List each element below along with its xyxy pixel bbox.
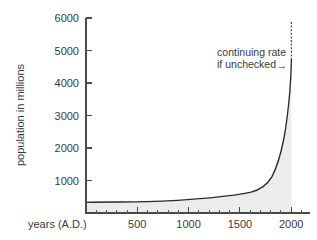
y-tick-label: 5000	[55, 45, 79, 57]
area-under-curve	[86, 60, 291, 213]
y-tick-label: 2000	[55, 142, 79, 154]
y-tick-label: 4000	[55, 77, 79, 89]
y-axis-ticks	[86, 18, 92, 181]
y-tick-label: 6000	[55, 12, 79, 24]
y-axis-tick-labels: 6000 5000 4000 3000 2000 1000	[55, 12, 79, 187]
x-axis-minor-ticks	[96, 210, 301, 214]
x-tick-label: 500	[128, 218, 146, 230]
annotation-line-2: if unchecked	[217, 58, 276, 70]
chart-canvas: 6000 5000 4000 3000 2000 1000	[0, 0, 317, 240]
x-axis-tick-labels: 500 1000 1500 2000	[128, 218, 303, 230]
y-axis-title: population in millions	[14, 63, 26, 166]
projection-annotation: continuing rate if unchecked →	[217, 46, 287, 71]
annotation-arrow-icon: →	[277, 59, 288, 71]
y-tick-label: 1000	[55, 175, 79, 187]
x-tick-label: 1000	[176, 218, 200, 230]
population-curve	[86, 60, 291, 202]
annotation-line-1: continuing rate	[217, 46, 286, 58]
population-growth-chart-figure: 6000 5000 4000 3000 2000 1000	[0, 0, 317, 240]
x-axis-title: years (A.D.)	[28, 218, 87, 230]
y-tick-label: 3000	[55, 110, 79, 122]
x-tick-label: 1500	[228, 218, 252, 230]
x-tick-label: 2000	[279, 218, 303, 230]
